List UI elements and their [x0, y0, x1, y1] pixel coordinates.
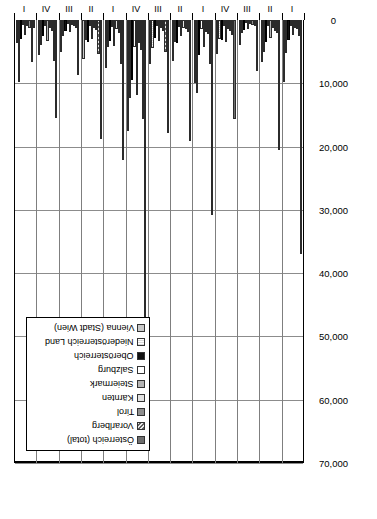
value-tick-10000: 10,000: [314, 78, 354, 89]
legend-label: Österreich (total): [67, 435, 134, 445]
legend-label: Steiermark: [90, 379, 134, 389]
bar: [55, 20, 57, 118]
bar: [256, 20, 258, 71]
category-tick: [36, 13, 37, 20]
chart-legend: Vienna (Stadt Wien)Niederösterreich Land…: [26, 317, 150, 451]
value-tick-20000: 20,000: [314, 141, 354, 152]
legend-item[interactable]: Tirol: [117, 407, 145, 417]
bar-group: [170, 20, 192, 463]
category-tick: [148, 13, 149, 20]
category-tick: [304, 13, 305, 20]
value-tick-50000: 50,000: [314, 331, 354, 342]
legend-swatch-pale-grey: [137, 394, 145, 402]
rotated-figure: 010,00020,00030,00040,00050,00060,00070,…: [0, 0, 377, 519]
bar: [189, 20, 191, 142]
value-tick-30000: 30,000: [314, 204, 354, 215]
quarter-label-1918-II: II: [173, 4, 187, 14]
legend-item[interactable]: Vienna (Stadt Wien): [54, 323, 145, 333]
quarter-label-1918-III: III: [151, 4, 165, 14]
category-tick: [192, 13, 193, 20]
legend-label: Salzburg: [98, 365, 134, 375]
legend-swatch-white: [137, 366, 145, 374]
category-tick: [103, 13, 104, 20]
value-tick-60000: 60,000: [314, 394, 354, 405]
legend-swatch-charcoal: [137, 436, 145, 444]
quarter-label-1919-II: II: [84, 4, 98, 14]
legend-label: Vorarlberg: [92, 421, 134, 431]
gridline-70000: [15, 463, 303, 464]
bar-group: [148, 20, 170, 463]
legend-item[interactable]: Vorarlberg: [92, 421, 145, 431]
legend-label: Oberösterreich: [74, 351, 134, 361]
quarter-label-1917-III: III: [240, 4, 254, 14]
bar-group: [259, 20, 281, 463]
legend-item[interactable]: Österreich (total): [67, 435, 145, 445]
legend-label: Vienna (Stadt Wien): [54, 323, 134, 333]
category-tick: [14, 13, 15, 20]
quarter-label-1919-III: III: [62, 4, 76, 14]
bar-group: [237, 20, 259, 463]
category-tick: [170, 13, 171, 20]
category-tick: [259, 13, 260, 20]
bar: [77, 20, 79, 75]
quarter-label-1917-IV: IV: [218, 4, 232, 14]
legend-item[interactable]: Niederösterreich Land: [45, 337, 145, 347]
bar: [167, 20, 169, 133]
category-tick: [215, 13, 216, 20]
bar-group: [282, 20, 304, 463]
bar-group: [192, 20, 214, 463]
quarter-label-1917-II: II: [263, 4, 277, 14]
bar: [33, 20, 35, 28]
figure-page: 010,00020,00030,00040,00050,00060,00070,…: [0, 0, 377, 519]
legend-swatch-light-grey: [137, 324, 145, 332]
category-tick: [59, 13, 60, 20]
bar: [278, 20, 280, 150]
legend-swatch-black: [137, 352, 145, 360]
quarter-label-1918-IV: IV: [129, 4, 143, 14]
quarter-label-1919-I: I: [106, 4, 120, 14]
quarter-label-1919-IV: IV: [39, 4, 53, 14]
legend-item[interactable]: Salzburg: [98, 365, 145, 375]
quarter-label-1917-I: I: [285, 4, 299, 14]
value-tick-40000: 40,000: [314, 268, 354, 279]
category-tick: [282, 13, 283, 20]
legend-item[interactable]: Kärnten: [102, 393, 145, 403]
category-tick: [81, 13, 82, 20]
category-tick: [126, 13, 127, 20]
legend-swatch-fine-dot: [137, 338, 145, 346]
bar: [211, 20, 213, 215]
legend-label: Kärnten: [102, 393, 134, 403]
bar: [122, 20, 124, 160]
legend-swatch-mid-grey: [137, 380, 145, 388]
quarter-label-1920-I: I: [17, 4, 31, 14]
bar: [100, 20, 102, 139]
quarter-label-1918-I: I: [196, 4, 210, 14]
bar-group: [215, 20, 237, 463]
legend-label: Tirol: [117, 407, 134, 417]
value-tick-0: 0: [314, 15, 354, 26]
bar: [300, 20, 302, 254]
value-tick-70000: 70,000: [314, 458, 354, 469]
bar: [233, 20, 235, 119]
legend-swatch-dark-grey: [137, 408, 145, 416]
legend-label: Niederösterreich Land: [45, 337, 134, 347]
legend-item[interactable]: Oberösterreich: [74, 351, 145, 361]
legend-swatch-hatch: [137, 422, 145, 430]
category-tick: [237, 13, 238, 20]
legend-item[interactable]: Steiermark: [90, 379, 145, 389]
